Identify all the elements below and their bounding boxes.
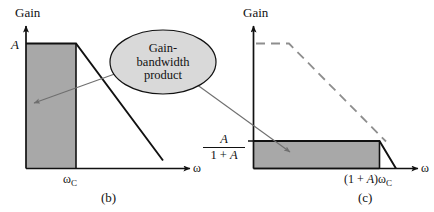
panel-b-cutoff-subscript: C bbox=[71, 178, 77, 188]
panel-c-graphics bbox=[248, 26, 418, 169]
panel-c-shaded-area bbox=[254, 141, 380, 169]
panel-b-caption: (b) bbox=[101, 191, 116, 204]
gain-bandwidth-figure: Gain A ωC ω (b) Gain A 1 + A (1 + A)ωC ω… bbox=[0, 0, 434, 212]
panel-c-cutoff-suffix: )ω bbox=[374, 172, 386, 186]
callout-line-1: Gain- bbox=[111, 42, 215, 56]
panel-b-cutoff-label: ωC bbox=[63, 173, 77, 188]
callout-label: Gain- bandwidth product bbox=[111, 42, 215, 83]
callout-line-3: product bbox=[111, 69, 215, 83]
panel-b-gain-level-label: A bbox=[11, 38, 19, 51]
callout-line-2: bandwidth bbox=[111, 56, 215, 70]
panel-b-cutoff-omega: ω bbox=[63, 172, 71, 186]
panel-c-gain-denominator-prefix: 1 + bbox=[210, 148, 230, 162]
panel-c-cutoff-prefix: (1 + bbox=[344, 172, 367, 186]
panel-b-y-axis-label: Gain bbox=[15, 6, 40, 19]
panel-c-caption: (c) bbox=[358, 191, 372, 204]
panel-c-gain-denominator-italic: A bbox=[230, 148, 238, 162]
panel-c-cutoff-label: (1 + A)ωC bbox=[344, 173, 392, 188]
panel-c-x-axis-label: ω bbox=[421, 162, 429, 174]
panel-b-x-axis-label: ω bbox=[193, 162, 201, 174]
panel-b-shaded-area bbox=[26, 44, 76, 169]
panel-c-gain-numerator: A bbox=[203, 133, 245, 147]
panel-c-cutoff-subscript: C bbox=[386, 178, 392, 188]
panel-c-y-axis-label: Gain bbox=[243, 6, 268, 19]
panel-c-dashed-reference bbox=[256, 44, 386, 142]
panel-c-gain-level-label: A 1 + A bbox=[203, 133, 245, 162]
panel-c-gain-denominator: 1 + A bbox=[203, 148, 245, 162]
panel-c-cutoff-italic-a: A bbox=[367, 172, 374, 186]
